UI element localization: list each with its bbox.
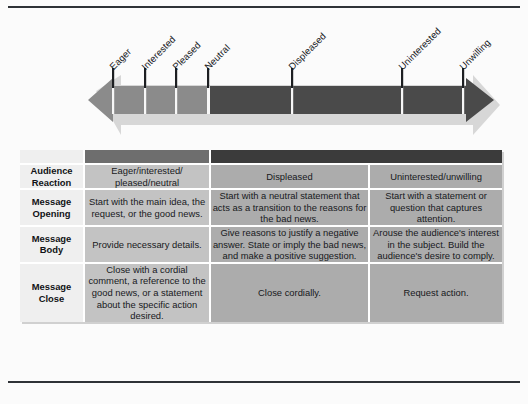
cell-message-opening-positive: Start with the main idea, the request, o…: [85, 190, 211, 227]
row-header-line1: Message: [32, 281, 72, 292]
figure-page: Eager Interested Pleased Neutral Displea…: [0, 0, 528, 404]
cell-message-opening-persuasive: Start with a statement or question that …: [370, 190, 502, 227]
table-row: Audience Reaction Eager/interested/ plea…: [20, 165, 502, 190]
header-band-negative: [211, 150, 502, 165]
cell-audience-reaction-persuasive: Uninterested/unwilling: [370, 165, 502, 190]
row-header-line1: Audience: [30, 165, 72, 176]
row-header-message-body: Message Body: [20, 227, 85, 264]
row-header-line2: Body: [40, 244, 63, 255]
cell-message-body-negative: Give reasons to justify a negative answe…: [211, 227, 370, 264]
table-row: Message Opening Start with the main idea…: [20, 190, 502, 227]
message-strategy-table: Audience Reaction Eager/interested/ plea…: [20, 150, 502, 322]
cell-message-close-persuasive: Request action.: [370, 264, 502, 322]
header-band-positive: [85, 150, 211, 165]
cell-message-body-positive: Provide necessary details.: [85, 227, 211, 264]
cell-audience-reaction-negative: Displeased: [211, 165, 370, 190]
cell-message-close-positive: Close with a cordial comment, a referenc…: [85, 264, 211, 322]
top-divider-rule: [8, 6, 520, 8]
row-header-line2: Reaction: [32, 177, 72, 188]
bottom-divider-rule: [8, 381, 520, 383]
cell-message-opening-negative: Start with a neutral statement that acts…: [211, 190, 370, 227]
cell-message-close-negative: Close cordially.: [211, 264, 370, 322]
row-header-line2: Close: [39, 293, 65, 304]
row-header-line1: Message: [32, 196, 72, 207]
table-row: Message Body Provide necessary details. …: [20, 227, 502, 264]
audience-reaction-continuum: Eager Interested Pleased Neutral Displea…: [0, 14, 528, 142]
row-header-audience-reaction: Audience Reaction: [20, 165, 85, 190]
table-row: Message Close Close with a cordial comme…: [20, 264, 502, 322]
cell-audience-reaction-positive: Eager/interested/ pleased/neutral: [85, 165, 211, 190]
row-header-line1: Message: [32, 233, 72, 244]
continuum-arrow-graphic: [0, 14, 528, 142]
header-band-blank: [20, 150, 85, 165]
row-header-message-opening: Message Opening: [20, 190, 85, 227]
table-header-band-row: [20, 150, 502, 165]
row-header-line2: Opening: [32, 208, 70, 219]
row-header-message-close: Message Close: [20, 264, 85, 322]
cell-message-body-persuasive: Arouse the audience's interest in the su…: [370, 227, 502, 264]
